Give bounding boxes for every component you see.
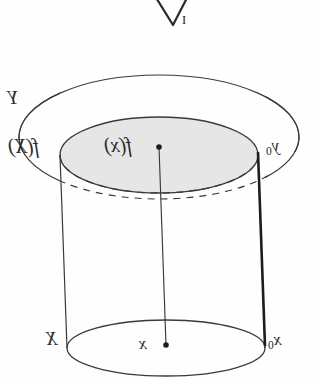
label-top-subscript: I: [182, 12, 186, 27]
label-y0-base: y: [272, 136, 280, 155]
label-base-space-x-capital: X: [46, 329, 58, 348]
label-base-point-x: x: [139, 335, 147, 352]
label-x0-subscript: 0: [268, 339, 274, 352]
label-x0-base: x: [274, 330, 282, 349]
figure-canvas: I Y f(X) f(x) y0 X x x0: [0, 0, 317, 383]
bundle-diagram-svg: [0, 0, 317, 383]
fiber-over-x0: [258, 152, 265, 346]
point-x: [163, 342, 169, 348]
label-basepoint-x0: x0: [268, 331, 281, 352]
label-y0-subscript: 0: [266, 145, 272, 158]
bottom-ellipse-x: [67, 320, 265, 376]
label-image-point-fx: f(x): [104, 135, 132, 155]
label-image-set-fx-capital: f(X): [8, 136, 39, 156]
label-top-clipped: I: [182, 4, 186, 27]
label-basepoint-image-y0: y0: [266, 137, 279, 158]
label-ambient-space-y: Y: [8, 88, 19, 107]
point-fx: [156, 144, 162, 150]
cylinder-wall-left: [60, 155, 67, 348]
